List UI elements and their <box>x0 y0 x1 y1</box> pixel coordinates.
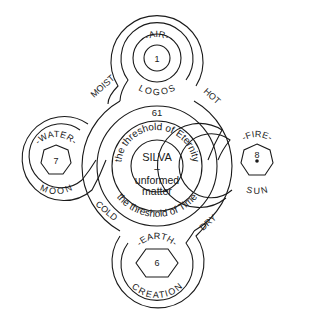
air-top-label: -AIR- <box>143 29 171 42</box>
air-bottom-label: LOGOS <box>137 83 176 97</box>
air-number: 1 <box>154 54 159 64</box>
center-silva: SILVA <box>142 151 172 163</box>
fire-dot <box>255 159 259 163</box>
center-matter: matter <box>142 185 172 197</box>
fire-number: 8 <box>254 150 259 160</box>
fire-bottom-label: SUN <box>245 184 268 196</box>
water-spiral <box>22 117 106 201</box>
fire-top-label: -FIRE- <box>240 129 274 143</box>
water-number: 7 <box>53 156 58 166</box>
earth-bottom-label: CREATION <box>130 281 184 300</box>
center-number: 61 <box>152 107 163 118</box>
elements-diagram: SILVA – unformed matter 61 the threshold… <box>0 0 313 320</box>
earth-number: 6 <box>154 258 159 268</box>
quality-dry: DRY <box>198 212 219 232</box>
quality-hot: HOT <box>202 86 223 106</box>
quality-moist: MOIST <box>89 73 117 100</box>
earth-top-label: -EARTH- <box>134 231 179 248</box>
center-dash: – <box>154 163 160 174</box>
water-bottom-label: MOON <box>39 182 74 196</box>
